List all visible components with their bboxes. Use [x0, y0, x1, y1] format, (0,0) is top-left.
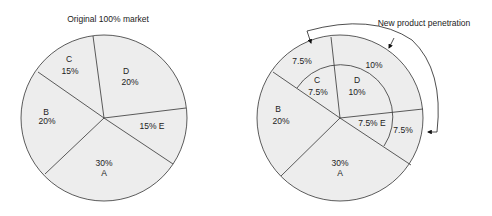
slice-e-inner-label: 7.5% E	[358, 118, 386, 128]
original-market-pie: Original 100% market C 15% D 20% B 20% 1…	[21, 14, 187, 201]
arrow-to-d	[389, 38, 394, 48]
slice-d-outer-pct: 10%	[365, 60, 382, 70]
left-title: Original 100% market	[67, 14, 149, 24]
slice-b-pct: 20%	[38, 116, 55, 126]
slice-d-inner-pct: 10%	[348, 87, 365, 97]
slice-a-pct: 30%	[331, 158, 348, 168]
new-product-pie: New product penetration 7.5% C 7.5% 10% …	[257, 18, 471, 201]
slice-c-name: C	[66, 54, 72, 64]
slice-c-outer-pct: 7.5%	[292, 56, 312, 66]
diagram-canvas: Original 100% market C 15% D 20% B 20% 1…	[0, 0, 492, 216]
slice-d-pct: 20%	[121, 77, 138, 87]
slice-d-inner-name: D	[354, 75, 360, 85]
slice-a-name: A	[337, 168, 343, 178]
slice-c-inner-pct: 7.5%	[308, 87, 328, 97]
slice-d-name: D	[123, 66, 129, 76]
slice-c-pct: 15%	[61, 66, 78, 76]
slice-e-outer-pct: 7.5%	[393, 125, 413, 135]
slice-a-pct: 30%	[95, 158, 112, 168]
slice-b-pct: 20%	[272, 116, 289, 126]
slice-a-name: A	[101, 168, 107, 178]
slice-b-name: B	[275, 104, 281, 114]
right-title: New product penetration	[378, 18, 471, 28]
slice-c-inner-name: C	[314, 75, 320, 85]
slice-e-label: 15% E	[139, 121, 164, 131]
